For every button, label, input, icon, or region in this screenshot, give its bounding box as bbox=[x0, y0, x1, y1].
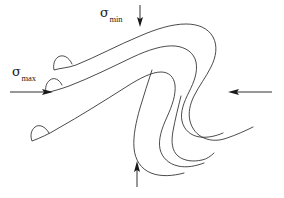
sigma-max-arrow-left bbox=[10, 89, 53, 95]
sigma-min-arrow-bottom bbox=[134, 161, 140, 187]
sigma-max-arrow-right bbox=[228, 89, 272, 95]
sigma-min-symbol: σ bbox=[100, 5, 109, 20]
sigma-max-subscript: max bbox=[21, 73, 36, 83]
outer-fold-curve bbox=[54, 24, 253, 140]
sigma-max-symbol: σ bbox=[12, 64, 21, 79]
inner-fold-curve bbox=[31, 72, 204, 167]
sigma-min-label: σmin bbox=[100, 6, 122, 22]
sigma-min-arrow-top bbox=[137, 5, 143, 27]
sigma-max-label: σmax bbox=[12, 65, 36, 81]
lower-left-tail-curve bbox=[134, 70, 184, 176]
stress-fold-figure: σmin σmax bbox=[0, 0, 284, 198]
figure-canvas bbox=[0, 0, 284, 198]
sigma-min-subscript: min bbox=[109, 14, 122, 24]
